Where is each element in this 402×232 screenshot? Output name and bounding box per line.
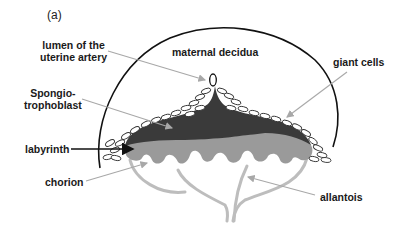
panel-label: (a) (47, 8, 62, 22)
label-chorion: chorion (45, 176, 84, 188)
label-giant-cells: giant cells (333, 56, 384, 68)
label-spongio-line2: trophoblast (24, 99, 82, 111)
allantois-curves (130, 158, 307, 221)
label-maternal-decidua: maternal decidua (172, 46, 258, 58)
label-lumen-uterine-artery: lumen of the uterine artery (40, 39, 107, 63)
label-labyrinth: labyrinth (25, 143, 69, 155)
placenta-diagram: (a) lumen of the uterine artery maternal… (0, 0, 402, 232)
label-lumen-line1: lumen of the (40, 39, 107, 51)
label-spongiotrophoblast: Spongio- trophoblast (24, 87, 82, 111)
label-allantois: allantois (320, 191, 363, 203)
label-lumen-line2: uterine artery (40, 51, 107, 63)
label-spongio-line1: Spongio- (24, 87, 82, 99)
uterine-artery-lumen (210, 74, 217, 86)
